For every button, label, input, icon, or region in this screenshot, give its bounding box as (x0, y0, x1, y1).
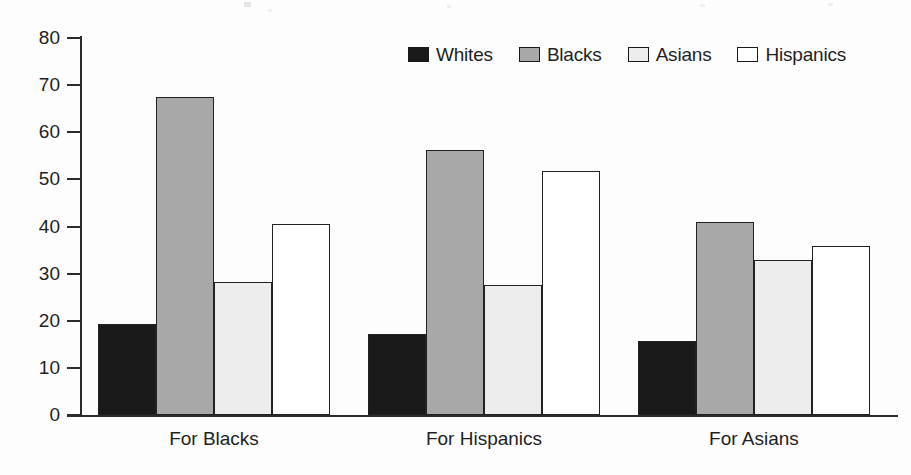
bar-blacks-group-1 (156, 97, 214, 415)
bar-blacks-group-3 (696, 222, 754, 415)
bar-asians-group-2 (484, 285, 542, 415)
bar-chart: Whites Blacks Asians Hispanics 010203040… (0, 0, 911, 475)
bars-layer (0, 0, 911, 417)
bar-blacks-group-2 (426, 150, 484, 415)
bar-hispanics-group-1 (272, 224, 330, 415)
x-axis-label-group-2: For Hispanics (384, 428, 584, 450)
bar-asians-group-3 (754, 260, 812, 415)
bar-whites-group-2 (368, 334, 426, 415)
bar-asians-group-1 (214, 282, 272, 415)
bar-whites-group-3 (638, 341, 696, 415)
x-axis-label-group-1: For Blacks (114, 428, 314, 450)
bar-hispanics-group-2 (542, 171, 600, 415)
bar-whites-group-1 (98, 324, 156, 415)
x-axis-label-group-3: For Asians (654, 428, 854, 450)
bar-hispanics-group-3 (812, 246, 870, 415)
